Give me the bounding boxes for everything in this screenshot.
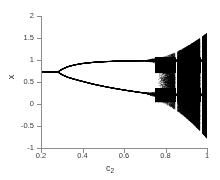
y-tick-mark [37,104,41,105]
y-tick-mark [37,126,41,127]
x-axis-title-subscript: 2 [110,167,114,174]
x-tick-label: 0.8 [146,151,186,160]
x-tick-label: 0.6 [104,151,144,160]
y-tick-mark [37,38,41,39]
y-tick-label: 1 [0,56,34,64]
y-tick-mark [37,16,41,17]
x-axis-title: c2 [90,163,130,176]
bifurcation-scatter-canvas [41,16,207,148]
y-tick-mark [37,60,41,61]
y-axis-title: x [6,65,16,89]
plot-area [41,16,207,148]
y-tick-label: 2 [0,12,34,20]
x-tick-label: 1 [187,151,220,160]
y-tick-label: -0.5 [0,122,34,130]
y-tick-label: 1.5 [0,34,34,42]
y-axis-line [41,16,42,149]
y-tick-mark [37,82,41,83]
x-tick-label: 0.2 [21,151,61,160]
x-tick-label: 0.4 [63,151,103,160]
bifurcation-diagram-figure: -1-0.500.511.52 0.20.40.60.81 x c2 [0,0,220,180]
y-tick-label: 0 [0,100,34,108]
